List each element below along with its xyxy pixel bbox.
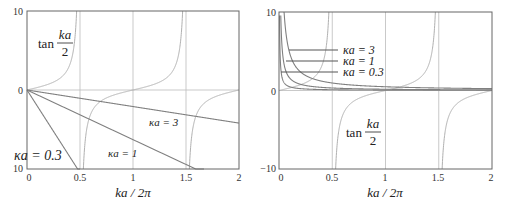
- left-ytick-top: 10: [13, 6, 23, 17]
- right-xtick-0: 0: [279, 172, 284, 183]
- right-frac-num: ka: [367, 116, 380, 131]
- curve-tan-ka-2-: [442, 91, 492, 170]
- left-xtick-1: 1: [131, 172, 136, 183]
- left-ytick-zero: 0: [18, 85, 23, 96]
- right-plot: 10 0 −10 0 0.5 1 1.5 2 ka / 2π κa = 3 κa…: [260, 7, 493, 200]
- left-label-k1: κa = 1: [108, 147, 137, 159]
- right-ytick-zero: 0: [271, 86, 276, 97]
- left-xtick-0: 0: [27, 172, 32, 183]
- right-label-k03: κa = 0.3: [343, 65, 384, 79]
- left-frac-num: ka: [59, 27, 72, 42]
- right-frac-den: 2: [370, 133, 377, 148]
- figure: 10 0 10 0 0.5 1 1.5 2 ka / 2π tan ka 2 κ…: [0, 0, 509, 211]
- right-xtick-05: 0.5: [326, 172, 339, 183]
- right-xlabel: ka / 2π: [367, 185, 403, 200]
- curve-tan-ka-2-: [279, 12, 329, 91]
- left-xtick-15: 1.5: [180, 172, 193, 183]
- left-tan-label: tan: [38, 36, 54, 51]
- left-label-k3: κa = 3: [149, 116, 179, 128]
- right-tan-label: tan: [346, 125, 362, 140]
- left-xtick-05: 0.5: [74, 172, 87, 183]
- right-xtick-1: 1: [383, 172, 388, 183]
- left-xlabel: ka / 2π: [115, 185, 151, 200]
- left-frac-den: 2: [62, 44, 69, 59]
- left-ytick-bottom: 10: [13, 163, 23, 174]
- right-ytick-bottom: −10: [260, 163, 276, 174]
- curve-tan-ka-2-: [189, 90, 239, 169]
- right-ytick-top: 10: [266, 7, 276, 18]
- left-xtick-2: 2: [237, 172, 242, 183]
- left-plot: 10 0 10 0 0.5 1 1.5 2 ka / 2π tan ka 2 κ…: [13, 6, 242, 200]
- right-xtick-15: 1.5: [432, 172, 445, 183]
- left-label-k03: κa = 0.3: [14, 148, 62, 163]
- right-xtick-2: 2: [489, 172, 494, 183]
